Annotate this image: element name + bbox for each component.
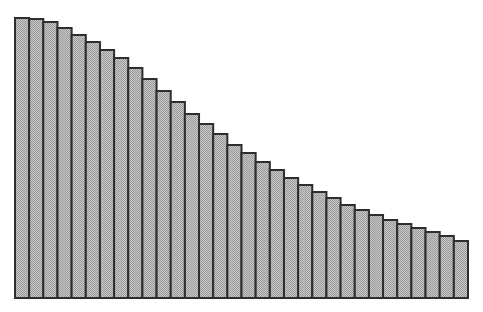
histogram-bar: [397, 224, 411, 298]
histogram-bar: [199, 124, 213, 298]
histogram-bar: [326, 198, 340, 298]
histogram-bar: [29, 19, 43, 298]
histogram-bar: [341, 205, 355, 298]
histogram-bar: [86, 42, 100, 298]
histogram-bar: [411, 228, 425, 298]
histogram-bar: [440, 236, 454, 298]
histogram-bar: [72, 35, 86, 298]
histogram-bar: [227, 145, 241, 298]
histogram-bar: [355, 210, 369, 298]
bars-group: [15, 18, 468, 298]
histogram-bar: [157, 91, 171, 298]
histogram-bar: [242, 153, 256, 298]
histogram-bar: [369, 215, 383, 298]
histogram-bar: [270, 170, 284, 298]
histogram-bar: [213, 134, 227, 298]
histogram-bar: [142, 79, 156, 298]
histogram-bar: [128, 68, 142, 298]
histogram-bar: [15, 18, 29, 298]
histogram-bar: [100, 50, 114, 298]
histogram-bar: [454, 241, 468, 298]
histogram-chart: [0, 0, 483, 312]
histogram-bar: [171, 102, 185, 298]
histogram-bar: [114, 58, 128, 298]
histogram-bar: [57, 28, 71, 298]
histogram-bar: [426, 232, 440, 298]
histogram-bar: [284, 178, 298, 298]
histogram-bar: [312, 192, 326, 298]
histogram-bar: [43, 22, 57, 298]
histogram-bar: [383, 220, 397, 298]
histogram-bar: [298, 185, 312, 298]
histogram-bar: [256, 162, 270, 298]
histogram-bar: [185, 114, 199, 298]
